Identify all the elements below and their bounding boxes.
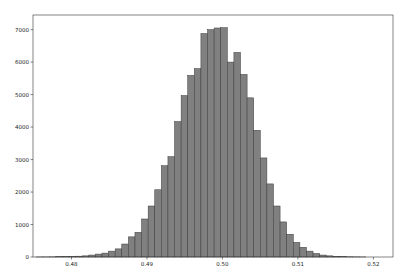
histogram-bar [280, 222, 287, 257]
histogram-bar [168, 157, 175, 257]
histogram-bar [293, 242, 300, 257]
histogram-bar [201, 34, 208, 257]
y-axis: 01000200030004000500060007000 [15, 27, 33, 260]
histogram-bar [306, 251, 313, 257]
y-tick-label: 3000 [15, 157, 29, 163]
histogram-bar [102, 253, 109, 257]
histogram-bar [267, 184, 274, 257]
histogram-bar [287, 234, 294, 257]
y-tick-label: 0 [26, 254, 30, 260]
histogram-bar [208, 30, 215, 257]
histogram-bar [188, 75, 195, 257]
histogram-bar [122, 244, 129, 257]
histogram-bar [161, 166, 168, 257]
x-axis: 0.480.490.500.510.52 [65, 257, 379, 267]
histogram-bar [300, 247, 307, 257]
histogram-bar [95, 254, 102, 257]
x-tick-label: 0.48 [65, 261, 78, 267]
histogram-bar [175, 122, 182, 257]
histogram-bar [142, 219, 149, 257]
x-tick-label: 0.52 [367, 261, 379, 267]
histogram-bar [241, 74, 248, 257]
y-tick-label: 4000 [15, 124, 29, 130]
histogram-bar [128, 237, 135, 257]
x-tick-label: 0.51 [292, 261, 304, 267]
histogram-bar [194, 69, 201, 257]
histogram-bar [273, 206, 280, 257]
histogram-bar [221, 28, 228, 257]
histogram-bar [227, 62, 234, 257]
histogram-bar [148, 206, 155, 257]
histogram-bars [36, 28, 366, 257]
y-tick-label: 1000 [15, 222, 29, 228]
histogram-chart: 01000200030004000500060007000 0.480.490.… [0, 0, 409, 274]
y-tick-label: 6000 [15, 59, 29, 65]
histogram-bar [313, 253, 320, 257]
histogram-bar [181, 96, 188, 257]
histogram-bar [234, 52, 241, 257]
histogram-bar [115, 249, 122, 257]
histogram-bar [260, 158, 267, 257]
histogram-bar [109, 251, 116, 257]
histogram-bar [135, 232, 142, 257]
x-tick-label: 0.50 [216, 261, 229, 267]
y-tick-label: 7000 [15, 27, 29, 33]
histogram-bar [254, 130, 261, 257]
histogram-bar [247, 98, 254, 257]
y-tick-label: 2000 [15, 189, 29, 195]
histogram-bar [214, 28, 221, 257]
x-tick-label: 0.49 [141, 261, 154, 267]
histogram-bar [155, 190, 162, 257]
y-tick-label: 5000 [15, 92, 29, 98]
